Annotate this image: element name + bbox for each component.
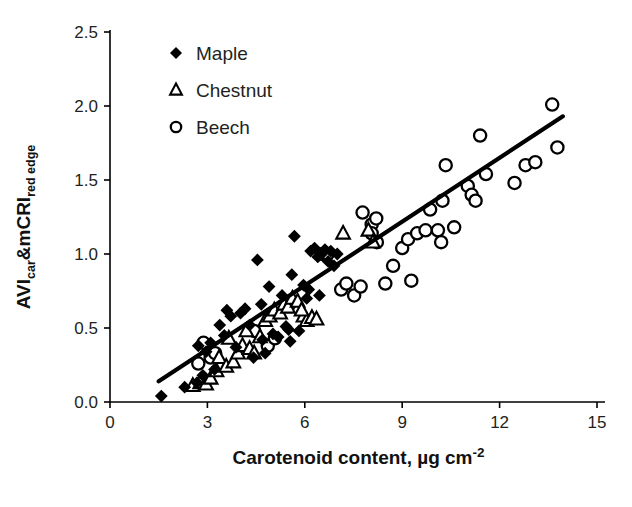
marker-maple xyxy=(170,47,182,59)
marker-maple xyxy=(155,390,168,403)
marker-chestnut xyxy=(170,84,182,95)
marker-beech xyxy=(387,260,399,272)
x-tick-label: 12 xyxy=(490,413,509,432)
marker-beech xyxy=(171,122,181,132)
marker-maple xyxy=(313,289,326,302)
marker-beech xyxy=(474,130,486,142)
y-tick-label: 1.5 xyxy=(74,171,98,190)
y-tick-label: 1.0 xyxy=(74,245,98,264)
x-tick-label: 6 xyxy=(300,413,309,432)
legend-item-maple: Maple xyxy=(196,43,248,64)
trend-line xyxy=(159,116,563,381)
marker-maple xyxy=(288,230,301,243)
marker-beech xyxy=(370,212,382,224)
marker-maple xyxy=(284,335,297,348)
marker-beech xyxy=(356,206,368,218)
marker-beech xyxy=(340,278,352,290)
regression-line xyxy=(159,116,563,381)
marker-beech xyxy=(355,280,367,292)
marker-beech xyxy=(440,159,452,171)
x-tick-label: 3 xyxy=(203,413,212,432)
marker-chestnut xyxy=(336,226,350,239)
marker-beech xyxy=(469,195,481,207)
y-tick-label: 2.0 xyxy=(74,97,98,116)
marker-maple xyxy=(263,280,276,293)
marker-beech xyxy=(419,224,431,236)
y-tick-label: 0.5 xyxy=(74,319,98,338)
chart-legend: MapleChestnutBeech xyxy=(170,43,273,138)
marker-beech xyxy=(508,177,520,189)
marker-beech xyxy=(379,278,391,290)
legend-item-beech: Beech xyxy=(196,117,250,138)
tick-labels: 036912150.00.51.01.52.02.5 xyxy=(74,23,606,432)
x-tick-label: 0 xyxy=(105,413,114,432)
marker-beech xyxy=(551,141,563,153)
legend-item-chestnut: Chestnut xyxy=(196,80,273,101)
x-axis-title: Carotenoid content, µg cm-2 xyxy=(232,445,484,468)
marker-beech xyxy=(432,224,444,236)
x-tick-label: 9 xyxy=(397,413,406,432)
marker-beech xyxy=(448,221,460,233)
chart-canvas: 036912150.00.51.01.52.02.5 MapleChestnut… xyxy=(0,0,632,507)
y-axis-title: AVIcar&mCRIred edge xyxy=(13,145,38,310)
marker-beech xyxy=(435,236,447,248)
y-tick-label: 2.5 xyxy=(74,23,98,42)
y-tick-label: 0.0 xyxy=(74,393,98,412)
marker-beech xyxy=(529,156,541,168)
x-tick-label: 15 xyxy=(588,413,607,432)
marker-maple xyxy=(285,268,298,281)
marker-beech xyxy=(405,275,417,287)
marker-maple xyxy=(251,254,264,267)
scatter-plot-figure: 036912150.00.51.01.52.02.5 MapleChestnut… xyxy=(0,0,632,507)
marker-beech xyxy=(546,98,558,110)
